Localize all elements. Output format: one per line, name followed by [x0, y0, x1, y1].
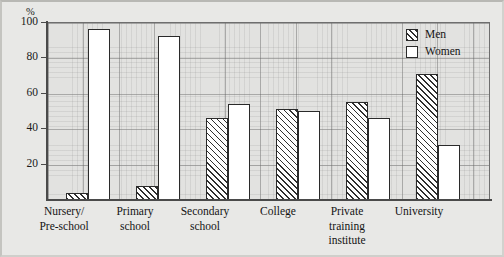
y-axis-line: [46, 21, 48, 201]
x-category-line: University: [378, 204, 460, 219]
legend-label-men: Men: [425, 29, 446, 41]
x-category-line: training: [306, 219, 388, 234]
y-tick-mark-20: [41, 164, 47, 165]
bar-women-college: [298, 111, 320, 200]
x-category-line: Nursery/: [24, 204, 104, 219]
y-tick-label-100: 100: [0, 16, 38, 28]
x-category-label-university: University: [378, 204, 460, 219]
bar-women-private: [368, 118, 390, 200]
bar-men-private: [346, 102, 368, 200]
y-tick-mark-80: [41, 57, 47, 58]
x-category-line: school: [164, 219, 246, 234]
bar-women-secondary: [228, 104, 250, 200]
y-tick-mark-60: [41, 93, 47, 94]
y-tick-mark-100: [41, 22, 47, 23]
x-category-line: institute: [306, 233, 388, 248]
x-category-line: Secondary: [164, 204, 246, 219]
x-category-line: school: [96, 219, 174, 234]
x-category-label-nursery: Nursery/ Pre-school: [24, 204, 104, 233]
y-tick-label-40: 40: [0, 122, 38, 134]
bar-men-primary: [136, 186, 158, 200]
x-axis-line: [46, 199, 492, 201]
chart-screenshot: % 100 80 60 40 20 Nursery/ Pre-school: [0, 0, 504, 257]
y-tick-label-80: 80: [0, 51, 38, 63]
x-category-line: Primary: [96, 204, 174, 219]
y-tick-mark-40: [41, 128, 47, 129]
legend-item-women: Women: [406, 44, 460, 59]
x-category-label-secondary: Secondary school: [164, 204, 246, 233]
legend-item-men: Men: [406, 27, 460, 42]
x-category-line: Private: [306, 204, 388, 219]
bar-women-university: [438, 145, 460, 200]
y-tick-label-60: 60: [0, 87, 38, 99]
legend-swatch-women-icon: [406, 46, 418, 58]
y-tick-label-20: 20: [0, 158, 38, 170]
legend-label-women: Women: [425, 46, 460, 58]
bar-men-university: [416, 74, 438, 200]
x-category-label-private: Private training institute: [306, 204, 388, 248]
bar-women-nursery: [88, 29, 110, 200]
bar-women-primary: [158, 36, 180, 200]
bar-men-college: [276, 109, 298, 200]
x-category-label-primary: Primary school: [96, 204, 174, 233]
bar-men-secondary: [206, 118, 228, 200]
chart-legend: Men Women: [406, 27, 460, 61]
x-category-line: Pre-school: [24, 219, 104, 234]
legend-swatch-men-icon: [406, 29, 418, 41]
